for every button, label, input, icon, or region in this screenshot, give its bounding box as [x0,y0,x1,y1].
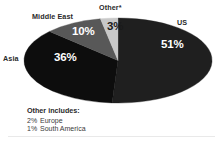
footnote-item-south-america-name: South America [40,125,86,132]
pie-label-asia: Asia [3,55,19,62]
footnote-item-europe-name: Europe [40,117,63,124]
footnote-item-south-america-percent: 1% [27,125,40,134]
chart-footnote: Other includes: 2%Europe 1%South America [27,107,86,134]
pie-value-asia: 36% [54,52,76,64]
pie-slice-us[interactable] [112,18,212,103]
pie-value-middle-east: 10% [72,26,94,38]
bottom-divider [8,136,215,137]
pie-label-other: Other* [99,4,122,11]
pie-label-us: US [177,19,187,26]
pie-chart-figure: US Asia Middle East Other* 51% 36% 10% 3… [0,0,223,142]
pie-value-us: 51% [161,39,183,51]
pie-label-middle-east: Middle East [32,13,73,20]
pie-value-other: 3% [107,21,123,33]
footnote-item-europe-percent: 2% [27,117,40,126]
footnote-item-south-america: 1%South America [27,125,86,134]
footnote-heading: Other includes: [27,107,86,116]
footnote-item-europe: 2%Europe [27,117,86,126]
